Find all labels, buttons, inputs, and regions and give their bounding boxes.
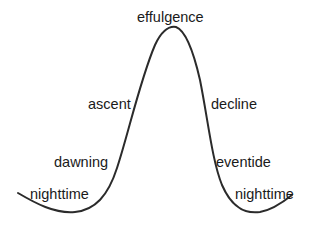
label-decline: decline [211,97,257,112]
label-nighttime-right: nighttime [235,187,294,202]
label-ascent: ascent [88,97,131,112]
label-nighttime-left: nighttime [30,187,89,202]
label-dawning: dawning [54,155,108,170]
curve-line [18,27,292,213]
label-effulgence: effulgence [137,10,204,25]
label-eventide: eventide [216,155,271,170]
